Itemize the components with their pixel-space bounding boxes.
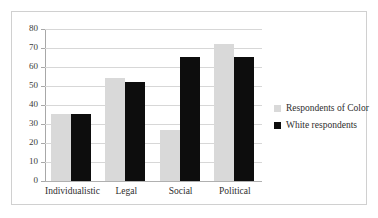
y-axis-tick-label: 40 (29, 100, 38, 109)
chart-legend: Respondents of Color White respondents (274, 100, 378, 134)
y-axis-tick-mark (41, 105, 45, 106)
bar-group (99, 29, 153, 181)
chart-figure: 01020304050607080 Respondents of Color W… (11, 11, 367, 205)
legend-item[interactable]: Respondents of Color (274, 100, 378, 117)
x-axis-tick-label: Individualistic (45, 186, 99, 197)
y-axis-tick-label: 30 (29, 119, 38, 128)
y-axis-tick-mark (41, 29, 45, 30)
y-axis-tick-mark (41, 67, 45, 68)
bar[interactable] (180, 57, 200, 181)
legend-item-label: White respondents (286, 120, 357, 131)
bar[interactable] (71, 114, 91, 181)
plot-area (45, 29, 262, 181)
bar[interactable] (51, 114, 71, 181)
y-axis-tick-label: 20 (29, 138, 38, 147)
bar[interactable] (234, 57, 254, 181)
bar[interactable] (160, 130, 180, 181)
bar[interactable] (214, 44, 234, 181)
bar-group (208, 29, 262, 181)
y-axis-tick-label: 50 (29, 81, 38, 90)
x-axis-tick-label: Social (154, 186, 208, 197)
y-axis-tick-mark (41, 124, 45, 125)
y-axis-tick-label: 10 (29, 157, 38, 166)
legend-item-label: Respondents of Color (286, 103, 369, 114)
y-axis-tick-label: 0 (34, 176, 39, 185)
y-axis-tick-mark (41, 143, 45, 144)
y-axis-tick-label: 80 (29, 24, 38, 33)
bar[interactable] (105, 78, 125, 181)
legend-item[interactable]: White respondents (274, 117, 378, 134)
y-axis-tick-mark (41, 162, 45, 163)
y-axis-tick-label: 70 (29, 43, 38, 52)
y-axis-tick-mark (41, 86, 45, 87)
legend-swatch-icon (274, 122, 281, 129)
bar-group (154, 29, 208, 181)
bar[interactable] (125, 82, 145, 181)
x-axis-tick-label: Legal (99, 186, 153, 197)
bar-group (45, 29, 99, 181)
y-axis-tick-mark (41, 181, 45, 182)
gridline (45, 181, 262, 182)
y-axis-tick-label: 60 (29, 62, 38, 71)
x-axis-tick-label: Political (208, 186, 262, 197)
y-axis-tick-mark (41, 48, 45, 49)
y-axis-tick-labels: 01020304050607080 (12, 12, 38, 206)
legend-swatch-icon (274, 105, 281, 112)
